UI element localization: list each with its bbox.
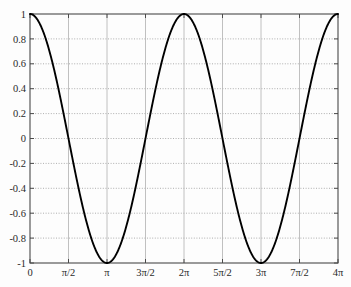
x-tick-label: π/2: [62, 267, 75, 278]
y-tick-label: -1: [17, 258, 26, 269]
x-tick-label: π: [104, 267, 110, 278]
x-tick-label: 3π/2: [136, 267, 155, 278]
x-tick-label: 3π: [256, 267, 267, 278]
x-tick-label: 0: [27, 267, 32, 278]
cosine-plot: 10.80.60.40.20-0.2-0.4-0.6-0.8-1 0π/2π3π…: [0, 0, 351, 287]
y-axis-tick-labels: 10.80.60.40.20-0.2-0.4-0.6-0.8-1: [9, 9, 26, 269]
y-tick-label: 0.8: [13, 34, 26, 45]
x-tick-label: 2π: [179, 267, 190, 278]
y-tick-label: -0.8: [9, 233, 26, 244]
y-tick-label: -0.2: [9, 158, 26, 169]
x-tick-label: 5π/2: [213, 267, 232, 278]
y-tick-label: 0.2: [13, 108, 26, 119]
y-tick-label: -0.4: [9, 183, 26, 194]
y-tick-label: 1: [21, 9, 26, 20]
x-tick-label: 4π: [333, 267, 344, 278]
y-tick-label: 0: [21, 133, 26, 144]
y-tick-label: -0.6: [9, 208, 26, 219]
y-tick-label: 0.6: [13, 58, 26, 69]
x-tick-label: 7π/2: [290, 267, 309, 278]
x-axis-tick-labels: 0π/2π3π/22π5π/23π7π/24π: [27, 267, 344, 278]
chart-figure: 10.80.60.40.20-0.2-0.4-0.6-0.8-1 0π/2π3π…: [0, 0, 351, 287]
y-tick-label: 0.4: [13, 83, 27, 94]
